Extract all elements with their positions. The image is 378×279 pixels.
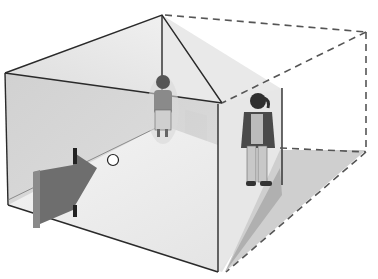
- peephole-circle: [108, 155, 119, 166]
- ames-room-diagram: [0, 0, 378, 279]
